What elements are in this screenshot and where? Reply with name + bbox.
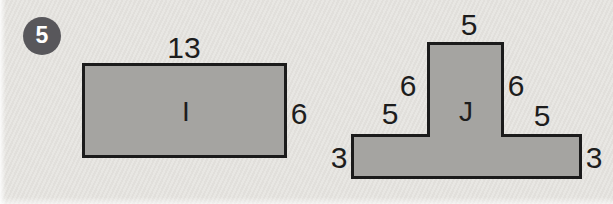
dimension-label-i-right: 6 — [291, 99, 308, 129]
dimension-label-j-upper-left: 6 — [400, 71, 417, 101]
dimension-label-i-top: 13 — [167, 33, 200, 63]
dimension-label-j-arm-right: 5 — [534, 101, 551, 131]
dimension-label-j-arm-left: 5 — [382, 99, 399, 129]
shape-label-i: I — [182, 98, 190, 126]
shape-label-j: J — [459, 98, 473, 126]
dimension-label-j-upper-right: 6 — [508, 71, 525, 101]
dimension-label-j-side-left: 3 — [331, 143, 348, 173]
dimension-label-j-side-right: 3 — [586, 143, 603, 173]
dimension-label-j-top: 5 — [461, 10, 478, 40]
worksheet-figure: 5 13 I 6 5 6 6 5 5 J 3 3 — [0, 0, 613, 204]
